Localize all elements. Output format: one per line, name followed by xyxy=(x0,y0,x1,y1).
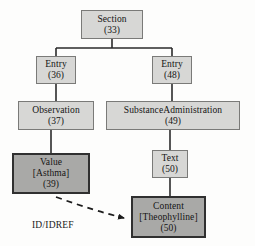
node-entry-right-label: Entry xyxy=(161,59,183,70)
node-entry-left-index: (36) xyxy=(48,70,64,81)
node-entry-left-label: Entry xyxy=(45,59,67,70)
node-value-index: (39) xyxy=(43,179,59,190)
node-observation-label: Observation xyxy=(32,105,80,116)
node-value-code: [Asthma] xyxy=(33,168,70,179)
node-content-label: Content xyxy=(153,201,184,212)
node-section-label: Section xyxy=(97,14,126,25)
node-value[interactable]: Value [Asthma] (39) xyxy=(12,153,90,194)
node-text[interactable]: Text (50) xyxy=(152,150,188,178)
node-substance-administration-label: SubstanceAdministration xyxy=(124,105,222,116)
node-content-index: (50) xyxy=(160,223,176,234)
node-substance-administration[interactable]: SubstanceAdministration (49) xyxy=(106,101,240,130)
node-content[interactable]: Content [Theophylline] (50) xyxy=(131,196,206,238)
node-section[interactable]: Section (33) xyxy=(81,10,143,39)
node-section-index: (33) xyxy=(104,25,120,36)
node-text-label: Text xyxy=(161,153,178,164)
edge-section-to-entries xyxy=(56,39,172,56)
node-observation-index: (37) xyxy=(48,116,64,127)
node-observation[interactable]: Observation (37) xyxy=(18,101,94,130)
node-content-code: [Theophylline] xyxy=(139,212,197,223)
node-value-label: Value xyxy=(40,157,62,168)
node-substance-administration-index: (49) xyxy=(165,116,181,127)
edge-label-id-idref: ID/IDREF xyxy=(32,220,74,230)
node-text-index: (50) xyxy=(162,164,178,175)
diagram-canvas: Section (33) Entry (36) Entry (48) Obser… xyxy=(0,0,255,246)
node-entry-left[interactable]: Entry (36) xyxy=(36,56,76,84)
node-entry-right-index: (48) xyxy=(164,70,180,81)
edge-value-to-content-idref xyxy=(56,197,124,218)
node-entry-right[interactable]: Entry (48) xyxy=(152,56,192,84)
